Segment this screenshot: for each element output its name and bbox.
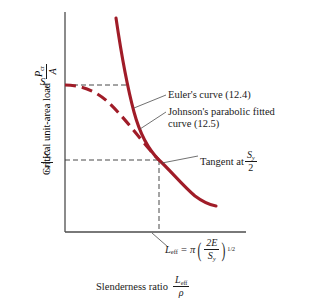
x-axis-label-text: Slenderness ratio <box>96 281 168 293</box>
tangent-frac-denominator: 2 <box>246 162 255 173</box>
x-frac-numerator-sub: eff <box>181 279 188 286</box>
equation-exponent: 1/2 <box>227 246 235 253</box>
annotation-tangent-point: Tangent at Sy 2 <box>200 150 258 173</box>
annotation-johnson-line1: Johnson's parabolic fitted <box>168 106 275 118</box>
x-axis-label-fraction: Leff ρ <box>173 275 189 298</box>
x-axis-label: Slenderness ratio Leff ρ <box>96 275 190 298</box>
annotation-johnson-curve: Johnson's parabolic fitted curve (12.5) <box>168 106 275 130</box>
y-tick-label-sy: Sy <box>40 75 49 87</box>
leader-line-johnson <box>140 112 166 129</box>
johnson-curve <box>65 85 159 160</box>
x-frac-numerator: L <box>175 274 181 285</box>
tick-sy2-numerator-sub: y <box>48 154 51 161</box>
equation-pi-symbol: π <box>190 244 195 256</box>
equation-fraction: 2E Sy <box>204 238 219 261</box>
equation-fraction-denominator-sub: y <box>213 255 216 262</box>
tick-sy-subscript: y <box>46 81 49 88</box>
annotation-euler-curve: Euler's curve (12.4) <box>168 89 251 101</box>
leader-line-euler <box>134 95 166 108</box>
leader-line-tangent <box>162 156 198 163</box>
figure-canvas: Critical unit-area load Pcr A Sy Sy 2 Eu… <box>0 0 309 300</box>
equation-equals: = <box>181 244 187 256</box>
equation-paren-close: ) <box>222 244 226 257</box>
equation-effective-length: Leff = π ( 2E Sy ) 1/2 <box>165 238 235 261</box>
tick-sy-symbol: S <box>40 75 46 87</box>
equation-fraction-numerator: 2E <box>204 238 219 250</box>
equation-lhs-sub: eff <box>171 248 178 255</box>
annotation-johnson-line2: curve (12.5) <box>168 118 275 130</box>
y-axis-label: Critical unit-area load Pcr A <box>35 29 57 209</box>
annotation-tangent-text: Tangent at <box>200 156 244 168</box>
equation-paren-open: ( <box>198 244 202 257</box>
annotation-tangent-fraction: Sy 2 <box>245 150 257 173</box>
tick-sy2-denominator: 2 <box>42 163 51 175</box>
x-frac-denominator: ρ <box>177 287 186 298</box>
y-tick-label-sy-half: Sy 2 <box>40 150 54 174</box>
y-frac-numerator-sub: cr <box>38 66 45 71</box>
tangent-frac-numerator-sub: y <box>252 154 255 161</box>
